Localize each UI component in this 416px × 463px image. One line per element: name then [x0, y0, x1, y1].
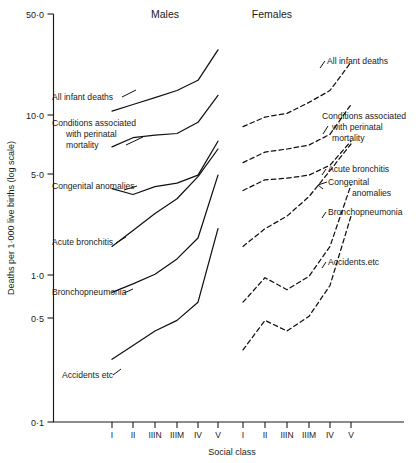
label-males-perinatal-line1: Conditions associated — [52, 118, 136, 128]
y-tick-label-0-1: 0·1 — [31, 418, 44, 428]
label-females-perinatal-line3: mortality — [332, 133, 365, 143]
leader-males-all-infant-deaths — [122, 90, 136, 97]
label-males-acute-bronchitis: Acute bronchitis — [52, 237, 113, 247]
x-tick-labels-females: I II IIIN IIIM IV V — [242, 430, 354, 440]
leader-males-accidents — [113, 369, 121, 375]
panel-title-females: Females — [252, 8, 292, 20]
curve-males-accidents — [112, 229, 218, 360]
label-females-accidents: Accidents.etc — [328, 257, 380, 267]
label-females-bronchopneumonia: Bronchopneumonia — [328, 207, 403, 217]
leader-females-all-infant-deaths — [320, 61, 325, 68]
x-label-males-I: I — [111, 430, 113, 440]
males-series-group — [112, 50, 218, 360]
y-tick-label-1: 1·0 — [31, 271, 44, 281]
label-males-perinatal-line3: mortality — [66, 140, 99, 150]
x-label-males-II: II — [131, 430, 136, 440]
axis-lines — [54, 14, 405, 422]
leader-males-bronchitis — [116, 237, 126, 243]
y-tick-label-5: 5·0 — [31, 170, 44, 180]
x-label-females-I: I — [242, 430, 244, 440]
leader-females-perinatal — [323, 126, 328, 134]
x-label-females-IIIM: IIIM — [302, 430, 316, 440]
panel-title-males: Males — [151, 8, 179, 20]
y-tick-label-50: 50·0 — [26, 10, 44, 20]
y-tick-label-0-5: 0·5 — [31, 314, 44, 324]
x-label-males-IV: IV — [194, 430, 202, 440]
label-males-bronchopneumonia: Bronchopneumonia — [52, 287, 127, 297]
axis-group: 50·0 10·0 5·0 1·0 0·5 0·1 Deaths per 1·0… — [6, 10, 404, 458]
x-tick-labels-males: I II IIIN IIIM IV V — [111, 430, 221, 440]
label-females-perinatal-line1: Conditions associated — [322, 111, 406, 121]
curve-females-bronchopneumonia — [243, 185, 351, 302]
leader-males-perinatal — [126, 137, 143, 145]
y-axis-title: Deaths per 1·000 live births (log scale) — [6, 141, 16, 295]
x-tick-marks-females — [243, 422, 351, 428]
curve-females-congenital-anomalies — [243, 144, 351, 246]
x-label-females-IIIN: IIIN — [280, 430, 293, 440]
label-females-acute-bronchitis: Acute bronchitis — [328, 164, 389, 174]
y-tick-label-10: 10·0 — [26, 111, 44, 121]
curve-males-acute-bronchitis — [112, 149, 218, 246]
chart-svg: 50·0 10·0 5·0 1·0 0·5 0·1 Deaths per 1·0… — [0, 0, 416, 463]
label-males-all-infant-deaths: All infant deaths — [52, 92, 113, 102]
label-males-accidents: Accidents etc — [62, 370, 114, 380]
label-females-perinatal-line2: with perinatal — [331, 122, 383, 132]
label-males-perinatal-line2: with perinatal — [65, 129, 117, 139]
label-females-congenital-line2: anomalies — [352, 188, 391, 198]
x-label-females-V: V — [348, 430, 354, 440]
x-axis-title: Social class — [208, 447, 256, 457]
x-label-males-V: V — [215, 430, 221, 440]
label-males-congenital-anomalies: Congenital anomalies — [52, 181, 135, 191]
x-label-males-IIIM: IIIM — [170, 430, 184, 440]
x-label-females-II: II — [263, 430, 268, 440]
leader-females-bronchitis — [322, 169, 326, 175]
y-tick-marks — [48, 14, 54, 422]
infant-mortality-chart: 50·0 10·0 5·0 1·0 0·5 0·1 Deaths per 1·0… — [0, 0, 416, 463]
label-females-all-infant-deaths: All infant deaths — [327, 56, 388, 66]
x-tick-marks-males — [112, 422, 218, 428]
leader-females-bronchopneumonia — [322, 212, 326, 218]
curve-males-all-infant-deaths — [112, 50, 218, 111]
x-label-females-IV: IV — [326, 430, 334, 440]
leader-females-accidents — [322, 262, 326, 268]
label-females-congenital-line1: Congenital — [328, 177, 369, 187]
y-tick-labels: 50·0 10·0 5·0 1·0 0·5 0·1 — [26, 10, 44, 428]
males-labels-group: All infant deaths Conditions associated … — [52, 90, 143, 380]
x-label-males-IIIN: IIIN — [148, 430, 161, 440]
females-labels-group: All infant deaths Conditions associated … — [318, 56, 406, 268]
